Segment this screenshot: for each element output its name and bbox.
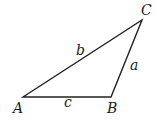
vertex-label-c: C: [141, 3, 152, 17]
side-label-b: b: [76, 43, 85, 57]
vertex-label-a: A: [13, 101, 23, 115]
triangle-abc: [23, 20, 142, 97]
vertex-label-b: B: [107, 101, 117, 115]
side-label-a: a: [130, 58, 138, 72]
triangle-diagram: C A B b a c: [0, 0, 157, 120]
side-label-c: c: [64, 95, 72, 109]
